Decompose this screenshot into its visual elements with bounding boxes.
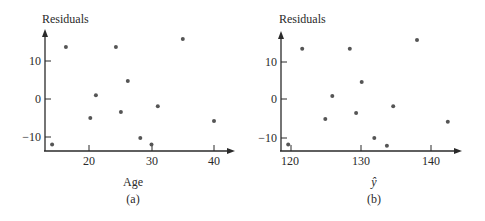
panel-a-caption: (a) <box>126 192 139 206</box>
panel-b-x-axis-arrow-icon <box>454 148 462 154</box>
panel-a-residuals-vs-age: Residuals 10 0 −10 20 30 40 Age (a) <box>22 12 235 206</box>
data-point <box>88 116 92 120</box>
data-point <box>348 47 352 51</box>
data-point <box>181 37 185 41</box>
data-point <box>64 45 68 49</box>
panel-a-y-axis-title: Residuals <box>42 12 89 26</box>
data-point <box>446 120 450 124</box>
data-point <box>372 136 376 140</box>
data-point <box>323 117 327 121</box>
panel-a-y-axis-arrow-icon <box>42 29 48 37</box>
panel-b-y-axis-title: Residuals <box>279 12 326 26</box>
data-point <box>286 143 290 147</box>
residual-plots-figure: Residuals 10 0 −10 20 30 40 Age (a) Resi… <box>0 0 485 221</box>
data-point <box>300 47 304 51</box>
data-point <box>354 111 358 115</box>
data-point <box>360 80 364 84</box>
data-point <box>119 110 123 114</box>
panel-b-data-points <box>286 38 450 148</box>
panel-b-caption: (b) <box>367 192 381 206</box>
panel-a-ytick-label: 10 <box>29 54 41 68</box>
data-point <box>156 104 160 108</box>
data-point <box>391 104 395 108</box>
panel-b-residuals-vs-yhat: Residuals 10 0 −10 120 130 140 ŷ (b) <box>258 12 462 206</box>
data-point <box>212 119 216 123</box>
panel-a-x-axis-title: Age <box>123 175 143 189</box>
panel-b-xtick-label: 120 <box>281 154 299 168</box>
panel-a-ytick-label: 0 <box>35 92 41 106</box>
data-point <box>415 38 419 42</box>
data-point <box>50 143 54 147</box>
data-point <box>114 45 118 49</box>
panel-b-ytick-label: 10 <box>265 55 277 69</box>
data-point <box>150 143 154 147</box>
panel-b-ytick-label: −10 <box>258 131 277 145</box>
panel-a-x-axis-arrow-icon <box>227 148 235 154</box>
panel-a-xtick-label: 30 <box>146 154 158 168</box>
panel-b-x-axis-title: ŷ <box>370 175 377 189</box>
panel-a-xtick-label: 40 <box>208 154 220 168</box>
panel-a-ytick-label: −10 <box>22 130 41 144</box>
data-point <box>385 144 389 148</box>
panel-b-ytick-label: 0 <box>271 92 277 106</box>
data-point <box>94 93 98 97</box>
data-point <box>138 136 142 140</box>
panel-b-y-axis-arrow-icon <box>278 31 284 39</box>
data-point <box>330 94 334 98</box>
panel-b-xtick-label: 130 <box>352 154 370 168</box>
panel-a-xtick-label: 20 <box>83 154 95 168</box>
panel-a-data-points <box>50 37 216 147</box>
panel-b-xtick-label: 140 <box>422 154 440 168</box>
data-point <box>126 79 130 83</box>
